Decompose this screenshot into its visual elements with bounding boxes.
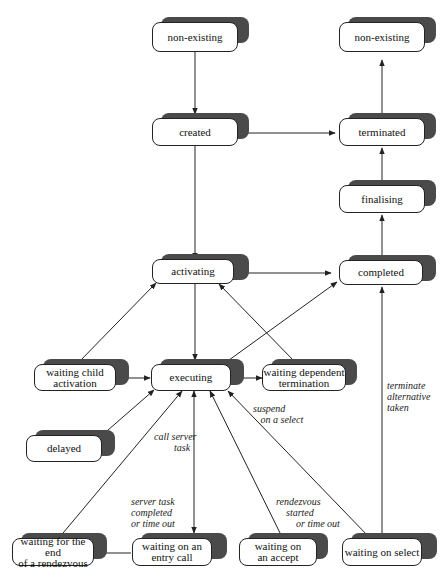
label-call-server-task: call server task xyxy=(154,431,197,453)
arrow-waitingdependent-activating xyxy=(219,284,295,362)
label-rendezvous-started: rendezvous started or time out xyxy=(276,496,340,529)
arrow-executing-completed xyxy=(218,282,337,368)
label-terminate-alternative: terminate alternative taken xyxy=(387,380,430,413)
arrow-waitingchild-activating xyxy=(78,283,156,363)
label-server-task-completed: server task completed or time out xyxy=(131,496,175,529)
label-suspend-on-select: suspend on a select xyxy=(253,403,303,425)
task-state-diagram: non-existing created non-existing termin… xyxy=(0,0,444,579)
transition-arrows xyxy=(0,0,444,579)
